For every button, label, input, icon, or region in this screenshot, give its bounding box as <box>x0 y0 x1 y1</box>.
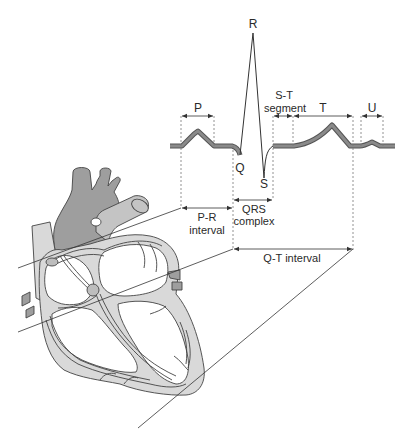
label-pr-line2: interval <box>189 224 224 236</box>
label-qrs-line2: complex <box>234 215 275 227</box>
label-st-line2: segment <box>264 102 306 114</box>
label-u: U <box>368 101 377 115</box>
valve-flap-right-2 <box>172 282 182 290</box>
label-qrs-line1: QRS <box>242 203 266 215</box>
sa-node <box>46 258 58 266</box>
av-node <box>87 284 99 296</box>
label-pr-line1: P-R <box>198 211 217 223</box>
label-r: R <box>249 17 258 31</box>
label-qt: Q-T interval <box>263 252 320 264</box>
ecg-heart-diagram: R P Q S S-T segment T U QRS complex P-R … <box>0 0 415 445</box>
heart-illustration <box>22 168 204 396</box>
label-q: Q <box>235 161 244 175</box>
left-atrium <box>99 245 168 296</box>
label-st-line1: S-T <box>275 89 293 101</box>
label-t: T <box>319 101 327 115</box>
label-p: P <box>194 101 202 115</box>
vessel-gap <box>91 218 101 226</box>
valve-flap-left <box>22 292 30 306</box>
label-s: S <box>260 177 268 191</box>
valve-flap-left-2 <box>26 306 34 318</box>
